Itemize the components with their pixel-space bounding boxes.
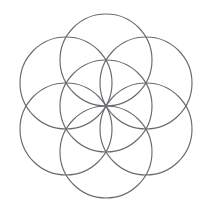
seed-of-life-diagram [0, 0, 211, 215]
seed-of-life-figure [0, 0, 211, 215]
